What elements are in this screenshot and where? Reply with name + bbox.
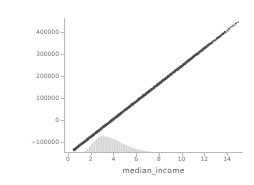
y-axis-label: SHAP value for median_income	[6, 0, 28, 40]
y-tick-mark	[61, 120, 64, 121]
y-tick-label: −100000	[31, 139, 59, 145]
y-tick-mark	[61, 142, 64, 143]
y-tick-mark	[61, 32, 64, 33]
x-axis-label: median_income	[64, 166, 243, 175]
y-axis-spine	[64, 18, 65, 153]
x-tick-label: 14	[223, 156, 231, 162]
y-tick-mark	[61, 54, 64, 55]
y-tick-mark	[61, 98, 64, 99]
x-tick-label: 6	[134, 156, 138, 162]
x-tick-label: 2	[89, 156, 93, 162]
x-tick-label: 4	[112, 156, 116, 162]
shap-dependence-plot: −1000000100000200000300000400000 0246810…	[0, 0, 254, 185]
y-tick-label: 200000	[36, 73, 59, 79]
x-tick-label: 12	[201, 156, 209, 162]
plot-axes-area: −1000000100000200000300000400000 0246810…	[64, 18, 243, 153]
y-tick-mark	[61, 76, 64, 77]
y-tick-label: 0	[55, 117, 59, 123]
scatter-plot-canvas	[64, 18, 243, 153]
y-tick-label: 300000	[36, 51, 59, 57]
y-tick-label: 100000	[36, 95, 59, 101]
x-tick-label: 8	[157, 156, 161, 162]
x-tick-label: 10	[178, 156, 186, 162]
x-tick-label: 0	[66, 156, 70, 162]
y-tick-label: 400000	[36, 29, 59, 35]
